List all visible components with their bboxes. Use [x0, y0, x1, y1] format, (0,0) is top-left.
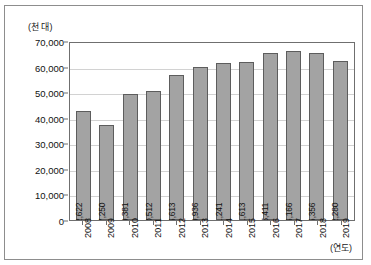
bar: 61,241: [216, 63, 231, 220]
chart-frame: (천 대) 70,00060,00050,00040,00030,00020,0…: [4, 5, 363, 260]
plot-area: 42,62237,25049,38150,51256,61359,93661,2…: [69, 42, 355, 221]
bar-slot: 61,241: [212, 43, 235, 220]
x-axis-label-slot: 2014: [212, 226, 236, 258]
bar: 65,411: [263, 53, 278, 220]
bar: 49,381: [123, 94, 138, 220]
y-axis-tick-label: 10,000: [35, 190, 64, 201]
x-axis-tick-label: 2015: [247, 218, 257, 238]
bar-slot: 56,613: [165, 43, 188, 220]
x-axis-tick-label: 2016: [271, 218, 281, 238]
y-axis-tick-label: 40,000: [35, 113, 64, 124]
x-axis-label-slot: 2010: [118, 226, 142, 258]
bar-value-label: 56,613: [167, 203, 177, 221]
bar: 62,280: [333, 61, 348, 220]
bar-value-label: 65,356: [307, 203, 317, 221]
bar-value-label: 61,613: [237, 203, 247, 221]
x-axis-label-slot: 2012: [165, 226, 189, 258]
x-axis-tick-label: 2010: [130, 218, 140, 238]
y-axis-tick-mark: [64, 144, 68, 145]
x-axis-tick-label: 2009: [106, 218, 116, 238]
bar: 50,512: [146, 91, 161, 220]
x-axis-unit-label: (연도): [330, 241, 352, 254]
x-axis-label-slot: 2009: [95, 226, 119, 258]
y-axis-tick-mark: [64, 221, 68, 222]
x-axis-label-slot: 2008: [71, 226, 95, 258]
x-axis-tick-label: 2017: [294, 218, 304, 238]
bar-slot: 49,381: [119, 43, 142, 220]
bar: 37,250: [99, 125, 114, 220]
bar-slot: 65,356: [305, 43, 328, 220]
bar: 42,622: [76, 111, 91, 220]
y-axis-tick-labels: 70,00060,00050,00040,00030,00020,00010,0…: [5, 42, 64, 221]
bar-value-label: 65,411: [260, 203, 270, 221]
y-axis-tick-mark: [64, 195, 68, 196]
y-axis-tick-mark: [64, 67, 68, 68]
x-axis-label-slot: 2015: [236, 226, 260, 258]
bar-slot: 62,280: [329, 43, 352, 220]
x-axis-label-slot: 2018: [306, 226, 330, 258]
bar: 65,356: [309, 53, 324, 220]
y-axis-tick-label: 60,000: [35, 62, 64, 73]
x-axis-label-slot: 2013: [189, 226, 213, 258]
bar-value-label: 66,166: [284, 203, 294, 221]
y-axis-tick-label: 70,000: [35, 37, 64, 48]
bar-series: 42,62237,25049,38150,51256,61359,93661,2…: [70, 43, 354, 220]
bar-slot: 37,250: [95, 43, 118, 220]
bar-value-label: 59,936: [190, 203, 200, 221]
bar: 61,613: [239, 62, 254, 220]
y-axis-tick-label: 50,000: [35, 88, 64, 99]
bar-slot: 42,622: [72, 43, 95, 220]
y-axis-tick-mark: [64, 93, 68, 94]
bar: 66,166: [286, 51, 301, 220]
y-axis-tick-mark: [64, 118, 68, 119]
bar: 56,613: [169, 75, 184, 220]
bar-value-label: 49,381: [120, 203, 130, 221]
y-axis-tick-mark: [64, 42, 68, 43]
y-axis-tick-label: 30,000: [35, 139, 64, 150]
x-axis-label-slot: 2011: [142, 226, 166, 258]
bar-slot: 66,166: [282, 43, 305, 220]
x-axis-tick-labels: 2008200920102011201220132014201520162017…: [69, 226, 355, 258]
y-axis-tick-mark: [64, 169, 68, 170]
x-axis-tick-label: 2008: [83, 218, 93, 238]
x-axis-tick-label: 2014: [224, 218, 234, 238]
bar-value-label: 61,241: [214, 203, 224, 221]
x-axis-tick-label: 2011: [153, 218, 163, 237]
x-axis-label-slot: 2016: [259, 226, 283, 258]
bar-slot: 59,936: [189, 43, 212, 220]
y-axis-tick-label: 20,000: [35, 164, 64, 175]
bar-slot: 50,512: [142, 43, 165, 220]
bar-value-label: 62,280: [330, 203, 340, 221]
bar-slot: 65,411: [259, 43, 282, 220]
x-axis-tick-label: 2018: [318, 218, 328, 238]
x-axis-tick-label: 2013: [200, 218, 210, 238]
x-axis-tick-label: 2012: [177, 218, 187, 238]
bar: 59,936: [193, 67, 208, 220]
plot-wrapper: 42,62237,25049,38150,51256,61359,93661,2…: [69, 42, 355, 221]
y-axis-unit-label: (천 대): [28, 20, 53, 33]
x-axis-label-slot: 2017: [283, 226, 307, 258]
bar-slot: 61,613: [235, 43, 258, 220]
x-axis-tick-label: 2019: [341, 218, 351, 238]
